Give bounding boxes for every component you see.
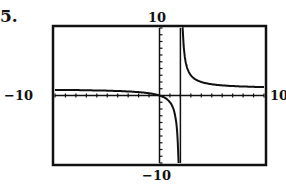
- graph-plot: [0, 0, 286, 189]
